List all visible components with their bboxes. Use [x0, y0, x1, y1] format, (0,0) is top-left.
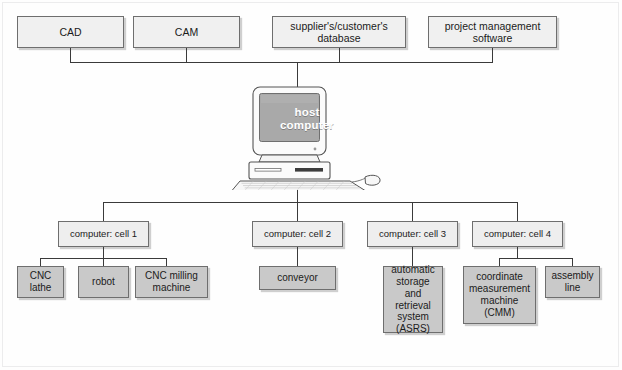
node-computer-cell-4[interactable]: computer: cell 4 [472, 221, 563, 247]
connector-cell4-branch-bar [499, 258, 572, 259]
connector-cad-drop [70, 48, 71, 62]
connector-conveyor-stem [297, 247, 298, 266]
connector-cam-drop [186, 48, 187, 62]
node-cam-label: CAM [172, 26, 201, 38]
node-conveyor-label: conveyor [274, 272, 321, 284]
connector-supplier-drop [339, 48, 340, 62]
node-asrs-label: automatic storage and retrieval system (… [384, 264, 442, 335]
connector-pms-drop [492, 48, 493, 62]
node-cmm-label: coordinate measurement machine (CMM) [464, 271, 535, 318]
connector-cell4-stem [517, 247, 518, 258]
node-conveyor[interactable]: conveyor [259, 266, 336, 290]
connector-cell-bus [103, 202, 517, 203]
connector-top-bus [70, 62, 493, 63]
connector-cnc-milling-drop [166, 258, 167, 266]
connector-cell3-drop [412, 202, 413, 221]
desktop-computer-icon [232, 86, 382, 190]
node-cnc-lathe-label: CNC lathe [18, 270, 63, 294]
connector-bus-to-host [297, 62, 298, 87]
node-assembly-line-label: assembly line [546, 270, 599, 294]
connector-cell4-drop [517, 202, 518, 221]
host-computer-group: host computer [232, 86, 382, 190]
node-cnc-milling-machine[interactable]: CNC milling machine [135, 266, 208, 298]
node-computer-cell-1[interactable]: computer: cell 1 [58, 221, 149, 247]
node-supplier-customer-database-label: supplier's/customer's database [273, 20, 405, 45]
node-robot[interactable]: robot [78, 266, 129, 298]
node-assembly-line[interactable]: assembly line [545, 266, 600, 298]
node-asrs[interactable]: automatic storage and retrieval system (… [383, 266, 443, 333]
node-computer-cell-1-label: computer: cell 1 [67, 228, 140, 239]
diagram-canvas: CAD CAM supplier's/customer's database p… [0, 0, 622, 370]
connector-robot-drop [103, 258, 104, 266]
node-computer-cell-4-label: computer: cell 4 [481, 228, 554, 239]
connector-assembly-drop [572, 258, 573, 266]
node-project-management-software[interactable]: project management software [428, 16, 557, 48]
node-cam[interactable]: CAM [133, 16, 240, 48]
node-robot-label: robot [89, 276, 118, 288]
node-computer-cell-3-label: computer: cell 3 [376, 228, 449, 239]
node-cmm[interactable]: coordinate measurement machine (CMM) [463, 266, 536, 324]
node-supplier-customer-database[interactable]: supplier's/customer's database [272, 16, 406, 48]
node-project-management-software-label: project management software [429, 20, 556, 45]
node-cnc-milling-machine-label: CNC milling machine [136, 270, 207, 294]
connector-cmm-drop [499, 258, 500, 266]
node-computer-cell-3[interactable]: computer: cell 3 [367, 221, 458, 247]
node-computer-cell-2[interactable]: computer: cell 2 [252, 221, 343, 247]
connector-host-drop [297, 190, 298, 202]
connector-cnc-lathe-drop [40, 258, 41, 266]
connector-cell1-stem [103, 247, 104, 258]
connector-cell2-drop [297, 202, 298, 221]
node-cnc-lathe[interactable]: CNC lathe [17, 266, 64, 298]
node-computer-cell-2-label: computer: cell 2 [261, 228, 334, 239]
node-cad[interactable]: CAD [17, 16, 124, 48]
connector-cell1-drop [103, 202, 104, 221]
node-cad-label: CAD [56, 26, 84, 38]
